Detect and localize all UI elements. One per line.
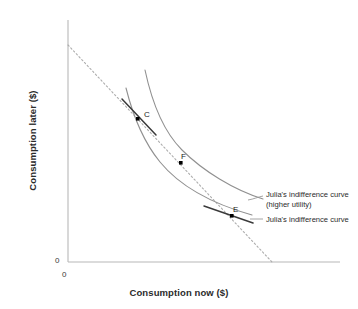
point-label-e: E [233,205,238,214]
data-point-f [179,161,183,165]
y-axis-origin-label: 0 [55,256,59,265]
x-axis-origin-label: 0 [62,270,66,279]
chart-canvas [0,0,358,309]
data-point-c [136,117,140,121]
point-label-f: F [181,152,186,161]
indifference-curve-base [126,88,252,215]
indifference-curve-figure: Consumption now ($) Consumption later ($… [0,0,358,309]
y-axis-title: Consumption later ($) [27,41,38,241]
curve-label-higher-utility: Julia's indifference curve (higher utili… [266,190,349,209]
point-label-c: C [144,110,150,119]
tangent-segment-at-e [204,206,253,223]
data-point-e [230,214,234,218]
curve-label-higher-utility-line1: Julia's indifference curve [266,190,349,200]
x-axis-title: Consumption now ($) [0,287,358,298]
curve-label-base: Julia's indifference curve [266,215,349,225]
budget-line [68,45,272,262]
indifference-curve-higher-utility [145,70,263,199]
curve-label-higher-utility-line2: (higher utility) [266,200,349,210]
